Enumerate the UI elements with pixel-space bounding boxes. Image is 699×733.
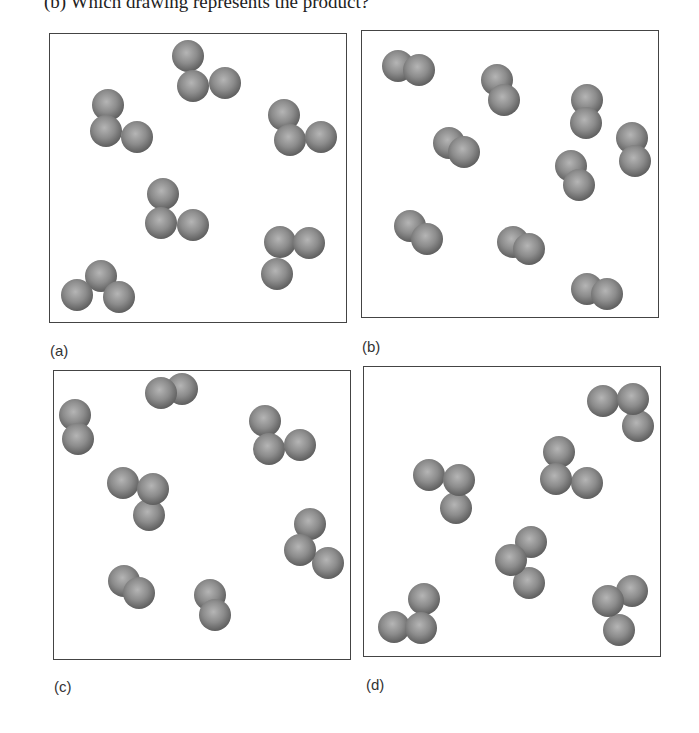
diatomic-molecule [194, 579, 231, 631]
diatomic-molecule [497, 226, 545, 265]
atom-sphere [570, 107, 602, 139]
atom-sphere [619, 145, 651, 177]
diatomic-molecule [570, 84, 603, 139]
drawing-panel-d[interactable] [363, 366, 661, 657]
triatomic-molecule [268, 99, 337, 156]
atom-sphere [495, 544, 527, 576]
atom-sphere [103, 281, 135, 313]
atom-sphere [405, 612, 437, 644]
diatomic-molecule [571, 273, 623, 310]
atom-sphere [513, 233, 545, 265]
atom-sphere [293, 227, 325, 259]
diatomic-molecule [616, 122, 651, 177]
atom-sphere [145, 207, 177, 239]
triatomic-molecule [540, 436, 603, 499]
diatomic-molecule [382, 50, 435, 86]
panel-label-c: (c) [54, 678, 72, 695]
diatomic-molecule [433, 127, 480, 168]
triatomic-molecule [413, 459, 475, 524]
triatomic-molecule [284, 508, 344, 579]
diatomic-molecule [108, 565, 155, 609]
atom-sphere [107, 467, 139, 499]
atom-sphere [145, 377, 177, 409]
atom-sphere [62, 423, 94, 455]
atom-sphere [147, 178, 179, 210]
atom-sphere [587, 385, 619, 417]
panel-label-d: (d) [366, 676, 384, 693]
atom-sphere [121, 121, 153, 153]
atom-sphere [571, 467, 603, 499]
triatomic-molecule [261, 226, 325, 290]
diatomic-molecule [394, 210, 443, 255]
triatomic-molecule [107, 467, 169, 531]
atom-sphere [177, 209, 209, 241]
atom-sphere [253, 433, 285, 465]
atom-sphere [284, 429, 316, 461]
triatomic-molecule [90, 89, 153, 153]
atom-sphere [543, 436, 575, 468]
triatomic-molecule [145, 178, 209, 241]
atom-sphere [261, 258, 293, 290]
diatomic-molecule [555, 150, 595, 201]
atom-sphere [440, 492, 472, 524]
atom-sphere [448, 136, 480, 168]
triatomic-molecule [249, 405, 316, 465]
atom-sphere [411, 223, 443, 255]
diatomic-molecule [145, 373, 198, 409]
atom-sphere [488, 84, 520, 116]
atom-sphere [540, 463, 572, 495]
atom-sphere [264, 226, 296, 258]
atom-sphere [172, 40, 204, 72]
atom-sphere [90, 115, 122, 147]
triatomic-molecule [592, 575, 648, 646]
atom-sphere [563, 169, 595, 201]
triatomic-molecule [378, 583, 440, 644]
atom-sphere [413, 459, 445, 491]
atom-sphere [274, 124, 306, 156]
atom-sphere [284, 534, 316, 566]
triatomic-molecule [61, 260, 135, 313]
diatomic-molecule [59, 399, 94, 455]
atom-sphere [443, 464, 475, 496]
atom-sphere [592, 585, 624, 617]
drawing-panel-a[interactable] [49, 33, 347, 323]
atom-sphere [403, 54, 435, 86]
atom-sphere [177, 70, 209, 102]
atom-sphere [591, 278, 623, 310]
panel-label-b: (b) [362, 338, 380, 355]
triatomic-molecule [495, 526, 547, 599]
atom-sphere [622, 410, 654, 442]
atom-sphere [209, 67, 241, 99]
atom-sphere [603, 614, 635, 646]
diatomic-molecule [481, 64, 520, 116]
atom-sphere [123, 577, 155, 609]
atom-sphere [408, 583, 440, 615]
panel-label-a: (a) [50, 342, 68, 359]
atom-sphere [305, 121, 337, 153]
atom-sphere [617, 383, 649, 415]
triatomic-molecule [172, 40, 241, 102]
atom-sphere [312, 547, 344, 579]
atom-sphere [137, 473, 169, 505]
atom-sphere [249, 405, 281, 437]
atom-sphere [61, 279, 93, 311]
drawing-panel-c[interactable] [53, 370, 351, 660]
question-text: (b) Which drawing represents the product… [44, 0, 369, 13]
drawing-panel-b[interactable] [361, 30, 659, 318]
triatomic-molecule [587, 383, 654, 442]
atom-sphere [199, 599, 231, 631]
